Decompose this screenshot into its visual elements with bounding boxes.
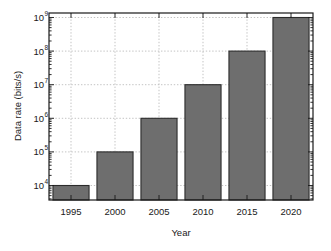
y-tick-label-7: 107 <box>33 77 48 90</box>
x-tick-label-2010: 2010 <box>192 206 213 217</box>
x-tick-label-1995: 1995 <box>60 206 81 217</box>
svg-text:10: 10 <box>33 79 44 90</box>
svg-text:10: 10 <box>33 180 44 191</box>
svg-text:6: 6 <box>45 111 49 118</box>
svg-text:8: 8 <box>45 44 49 51</box>
svg-text:7: 7 <box>45 77 49 84</box>
x-tick-label-2005: 2005 <box>148 206 169 217</box>
y-tick-label-5: 105 <box>33 144 48 157</box>
svg-text:10: 10 <box>33 146 44 157</box>
x-axis-title: Year <box>171 227 190 238</box>
svg-text:10: 10 <box>33 46 44 57</box>
x-tick-label-2000: 2000 <box>104 206 125 217</box>
svg-text:5: 5 <box>45 144 49 151</box>
svg-text:10: 10 <box>33 113 44 124</box>
bar-2000 <box>97 152 133 200</box>
x-axis-tick-labels: 199520002005201020152020 <box>60 206 301 217</box>
bar-2020 <box>273 18 309 201</box>
y-axis-tick-labels: 104105106107108109 <box>33 10 48 191</box>
y-tick-label-9: 109 <box>33 10 48 23</box>
y-tick-label-8: 108 <box>33 44 48 57</box>
svg-text:4: 4 <box>45 178 49 185</box>
svg-text:9: 9 <box>45 10 49 17</box>
bar-chart: 104105106107108109 199520002005201020152… <box>0 0 331 251</box>
svg-text:10: 10 <box>33 12 44 23</box>
bar-2010 <box>185 85 221 200</box>
y-tick-label-6: 106 <box>33 111 48 124</box>
x-tick-label-2015: 2015 <box>236 206 257 217</box>
y-tick-label-4: 104 <box>33 178 48 191</box>
x-tick-label-2020: 2020 <box>280 206 301 217</box>
y-axis-title: Data rate (bits/s) <box>12 71 23 141</box>
chart-figure: 104105106107108109 199520002005201020152… <box>0 0 331 251</box>
bar-2005 <box>141 118 177 200</box>
bar-2015 <box>229 51 265 200</box>
